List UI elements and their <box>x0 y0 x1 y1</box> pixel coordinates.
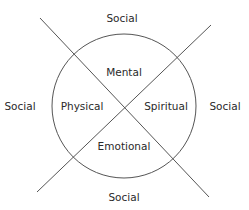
outer-label-left: Social <box>4 101 35 112</box>
inner-label-spiritual: Spiritual <box>144 101 188 112</box>
outer-label-bottom: Social <box>108 192 139 203</box>
inner-label-mental: Mental <box>106 67 142 78</box>
inner-label-physical: Physical <box>61 101 104 112</box>
outer-label-top: Social <box>106 13 137 24</box>
inner-label-emotional: Emotional <box>98 141 151 152</box>
outer-label-right: Social <box>209 101 240 112</box>
wellness-diagram: Social Social Social Social Mental Physi… <box>0 0 249 210</box>
